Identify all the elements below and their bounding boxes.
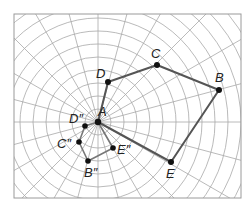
grid-ring bbox=[0, 0, 250, 214]
label-e: E bbox=[166, 166, 175, 181]
grid-ring bbox=[0, 0, 250, 214]
diagram-canvas: ABCDED″C″B″E″ bbox=[0, 0, 250, 214]
label-b-double-prime: B″ bbox=[84, 165, 98, 180]
point-labels: ABCDED″C″B″E″ bbox=[57, 46, 224, 181]
point-e-double-prime bbox=[110, 145, 116, 151]
diagram-frame bbox=[14, 14, 241, 198]
label-c: C bbox=[151, 46, 161, 61]
point-b bbox=[216, 87, 222, 93]
grid-ray bbox=[98, 65, 250, 122]
polar-grid-diagram: ABCDED″C″B″E″ bbox=[0, 0, 250, 214]
original-edge bbox=[108, 65, 157, 82]
grid-ring bbox=[0, 0, 250, 214]
label-d: D bbox=[96, 66, 105, 81]
label-b: B bbox=[215, 70, 224, 85]
grid-ring bbox=[0, 0, 241, 214]
point-e bbox=[168, 159, 174, 165]
label-e-double-prime: E″ bbox=[117, 142, 131, 157]
label-d-double-prime: D″ bbox=[69, 111, 83, 126]
label-a: A bbox=[97, 104, 107, 119]
point-d-double-prime bbox=[82, 123, 88, 129]
point-a bbox=[95, 119, 101, 125]
grid-ray bbox=[98, 122, 209, 214]
point-c bbox=[154, 62, 160, 68]
point-b-double-prime bbox=[85, 158, 91, 164]
point-c-double-prime bbox=[76, 139, 82, 145]
label-c-double-prime: C″ bbox=[57, 136, 71, 151]
original-edge bbox=[157, 65, 219, 90]
point-d bbox=[105, 79, 111, 85]
polar-grid bbox=[0, 0, 250, 214]
